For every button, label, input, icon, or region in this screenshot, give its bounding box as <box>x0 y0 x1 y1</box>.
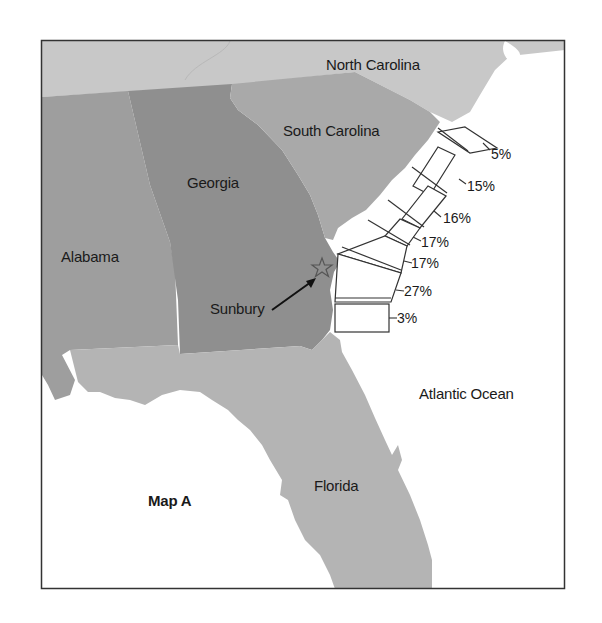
label-sunbury: Sunbury <box>210 300 264 317</box>
segment-value: 17% <box>411 255 439 271</box>
segment-value: 15% <box>467 178 495 194</box>
label-georgia: Georgia <box>187 174 239 191</box>
map-graphic <box>0 0 602 623</box>
label-florida: Florida <box>314 477 358 494</box>
label-atlantic-ocean: Atlantic Ocean <box>419 385 514 402</box>
segment-value: 27% <box>404 283 432 299</box>
label-north-carolina: North Carolina <box>326 56 420 73</box>
segment-value: 16% <box>443 210 471 226</box>
region-florida <box>70 332 432 589</box>
label-south-carolina: South Carolina <box>283 122 379 139</box>
segment-value: 3% <box>397 310 417 326</box>
label-alabama: Alabama <box>61 248 119 265</box>
map-title: Map A <box>148 492 191 509</box>
segment-value: 5% <box>491 146 511 162</box>
segment-value: 17% <box>421 234 449 250</box>
